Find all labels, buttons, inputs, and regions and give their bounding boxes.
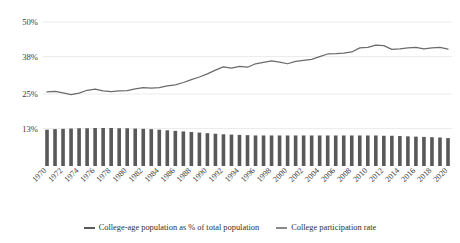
line-series: [47, 45, 448, 95]
bar: [294, 135, 298, 166]
bar: [53, 129, 57, 166]
x-axis-tick-label: 1976: [79, 166, 97, 183]
x-axis-tick-label: 2012: [367, 166, 385, 183]
bar: [342, 135, 346, 166]
x-axis-tick-label: 1986: [159, 166, 177, 183]
x-axis-tick-label: 1970: [30, 166, 48, 183]
participation-rate-line: [47, 45, 448, 95]
bar: [93, 128, 97, 166]
x-axis-tick-label: 2008: [335, 166, 353, 183]
x-axis-tick-label: 2006: [319, 166, 337, 183]
chart-legend: College-age population as % of total pop…: [0, 218, 460, 238]
bar: [414, 137, 418, 166]
bar: [390, 136, 394, 166]
plot-area: 13%25%38%50% 197019721974197619781980198…: [0, 13, 460, 183]
bar: [174, 131, 178, 166]
bar: [246, 135, 250, 166]
x-axis-tick-label: 1978: [95, 166, 113, 183]
top-caption-strip: [0, 0, 460, 13]
bar: [398, 136, 402, 166]
legend-bar-swatch-icon: [84, 227, 95, 230]
bar: [334, 135, 338, 166]
bar: [206, 133, 210, 166]
bar: [318, 135, 322, 166]
y-axis-tick-label: 13%: [22, 124, 38, 134]
x-axis-tick-label: 1996: [239, 166, 257, 183]
x-axis-tick-label: 1982: [127, 166, 145, 183]
y-axis-tick-label: 50%: [22, 17, 38, 27]
x-axis-tick-label: 1992: [207, 166, 225, 183]
x-axis-tick-label: 2010: [351, 166, 369, 183]
x-axis-tick-label: 2002: [287, 166, 305, 183]
x-axis-tick-label: 2014: [383, 166, 401, 183]
x-axis-tick-label: 1990: [191, 166, 209, 183]
bar: [406, 136, 410, 166]
bar: [101, 128, 105, 166]
y-axis-tick-label: 38%: [22, 52, 38, 62]
x-axis-tick-label: 1974: [63, 166, 81, 183]
bar: [286, 135, 290, 166]
legend-line-swatch-icon: [276, 227, 287, 228]
bar: [61, 129, 65, 166]
bar: [422, 137, 426, 166]
legend-item-line-series: College participation rate: [276, 223, 376, 233]
bar: [430, 137, 434, 166]
bar: [254, 135, 258, 166]
bar: [262, 135, 266, 166]
bar: [133, 129, 137, 166]
bar: [222, 134, 226, 166]
bar: [326, 135, 330, 166]
x-axis-tick-label: 1998: [255, 166, 273, 183]
x-axis-tick-label: 1972: [47, 166, 65, 183]
legend-label-bar-series: College-age population as % of total pop…: [99, 223, 259, 233]
x-axis-tick-label: 2000: [271, 166, 289, 183]
legend-item-bar-series: College-age population as % of total pop…: [84, 223, 259, 233]
bar: [182, 131, 186, 166]
bar: [109, 128, 113, 166]
bar: [310, 135, 314, 166]
x-axis-tick-label: 2018: [415, 166, 433, 183]
x-axis-tick-label: 2020: [431, 166, 449, 183]
x-axis-tick-label: 1994: [223, 166, 241, 183]
combo-chart-svg: 13%25%38%50% 197019721974197619781980198…: [0, 13, 460, 183]
bar: [270, 135, 274, 166]
bar: [374, 135, 378, 166]
bar: [214, 134, 218, 166]
bar-series: [45, 128, 450, 166]
chart-container: 13%25%38%50% 197019721974197619781980198…: [0, 0, 460, 243]
bar: [166, 130, 170, 166]
bar: [366, 135, 370, 166]
y-axis-tick-label: 25%: [22, 89, 38, 99]
bar: [157, 130, 161, 166]
bar: [149, 129, 153, 166]
bar: [125, 128, 129, 166]
x-axis-tick-label: 1988: [175, 166, 193, 183]
bar: [198, 133, 202, 166]
x-axis-labels: 1970197219741976197819801982198419861988…: [30, 166, 449, 183]
bar: [358, 135, 362, 166]
bar: [382, 136, 386, 166]
bar: [85, 128, 89, 166]
gridlines: [43, 22, 452, 129]
bar: [350, 135, 354, 166]
x-axis-tick-label: 2016: [399, 166, 417, 183]
bar: [45, 130, 49, 166]
legend-label-line-series: College participation rate: [291, 223, 376, 233]
bar: [117, 128, 121, 166]
bar: [446, 138, 450, 166]
bar: [302, 135, 306, 166]
y-axis-labels: 13%25%38%50%: [22, 17, 38, 134]
bar: [238, 135, 242, 166]
bar: [69, 129, 73, 166]
bar: [230, 135, 234, 166]
bar: [190, 132, 194, 166]
x-axis-tick-label: 2004: [303, 166, 321, 183]
bar: [77, 128, 81, 166]
bar: [141, 129, 145, 166]
bar: [438, 137, 442, 166]
bar: [278, 135, 282, 166]
x-axis-tick-label: 1984: [143, 166, 161, 183]
x-axis-tick-label: 1980: [111, 166, 129, 183]
